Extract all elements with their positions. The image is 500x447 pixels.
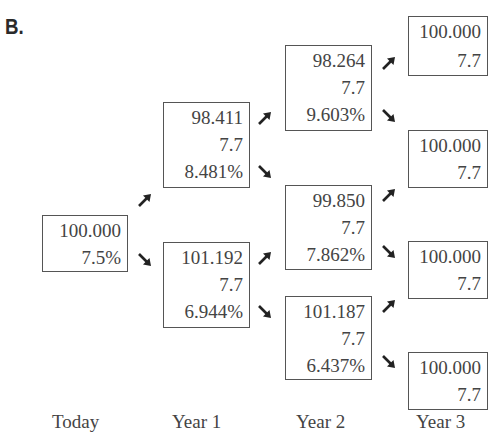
node-year2-mid: 99.850 7.7 7.862% bbox=[285, 185, 372, 270]
node-price: 100.000 bbox=[409, 18, 481, 45]
arrow-up-right-icon bbox=[137, 192, 153, 208]
arrow-down-right-icon bbox=[381, 244, 397, 260]
node-coupon: 7.7 bbox=[409, 159, 481, 186]
node-year2-up: 98.264 7.7 9.603% bbox=[285, 45, 372, 131]
column-label-year3: Year 3 bbox=[416, 411, 465, 433]
node-coupon: 7.7 bbox=[286, 74, 365, 101]
node-year2-down: 101.187 7.7 6.437% bbox=[285, 296, 372, 380]
column-label-year2: Year 2 bbox=[296, 411, 345, 433]
node-coupon: 7.7 bbox=[409, 47, 481, 74]
node-year3-3: 100.000 7.7 bbox=[408, 241, 488, 299]
node-price: 98.411 bbox=[164, 104, 243, 131]
node-today: 100.000 7.5% bbox=[42, 215, 128, 272]
arrow-up-right-icon bbox=[381, 298, 397, 314]
node-price: 101.192 bbox=[164, 244, 243, 271]
node-coupon: 7.7 bbox=[286, 214, 365, 241]
node-rate: 6.944% bbox=[164, 298, 243, 325]
node-price: 100.000 bbox=[409, 354, 481, 381]
node-rate: 9.603% bbox=[286, 101, 365, 128]
node-price: 100.000 bbox=[43, 217, 121, 244]
arrow-down-right-icon bbox=[257, 304, 273, 320]
column-label-year1: Year 1 bbox=[172, 411, 221, 433]
node-price: 98.264 bbox=[286, 47, 365, 74]
node-coupon: 7.7 bbox=[409, 270, 481, 297]
arrow-up-right-icon bbox=[381, 55, 397, 71]
node-rate: 7.5% bbox=[43, 244, 121, 271]
node-coupon: 7.7 bbox=[286, 325, 365, 352]
arrow-down-right-icon bbox=[137, 252, 153, 268]
arrow-up-right-icon bbox=[381, 187, 397, 203]
node-price: 99.850 bbox=[286, 187, 365, 214]
arrow-up-right-icon bbox=[257, 110, 273, 126]
node-coupon: 7.7 bbox=[164, 271, 243, 298]
node-coupon: 7.7 bbox=[164, 131, 243, 158]
node-price: 101.187 bbox=[286, 298, 365, 325]
node-year1-down: 101.192 7.7 6.944% bbox=[163, 242, 250, 328]
arrow-down-right-icon bbox=[381, 108, 397, 124]
node-year1-up: 98.411 7.7 8.481% bbox=[163, 102, 250, 188]
figure-label: B. bbox=[5, 14, 24, 40]
node-year3-1: 100.000 7.7 bbox=[408, 16, 488, 76]
arrow-down-right-icon bbox=[381, 354, 397, 370]
column-label-today: Today bbox=[52, 411, 99, 433]
node-coupon: 7.7 bbox=[409, 381, 481, 408]
node-year3-4: 100.000 7.7 bbox=[408, 352, 488, 410]
node-price: 100.000 bbox=[409, 243, 481, 270]
arrow-up-right-icon bbox=[257, 250, 273, 266]
arrow-down-right-icon bbox=[257, 164, 273, 180]
node-rate: 7.862% bbox=[286, 241, 365, 268]
node-rate: 6.437% bbox=[286, 352, 365, 379]
node-year3-2: 100.000 7.7 bbox=[408, 130, 488, 188]
node-rate: 8.481% bbox=[164, 158, 243, 185]
node-price: 100.000 bbox=[409, 132, 481, 159]
